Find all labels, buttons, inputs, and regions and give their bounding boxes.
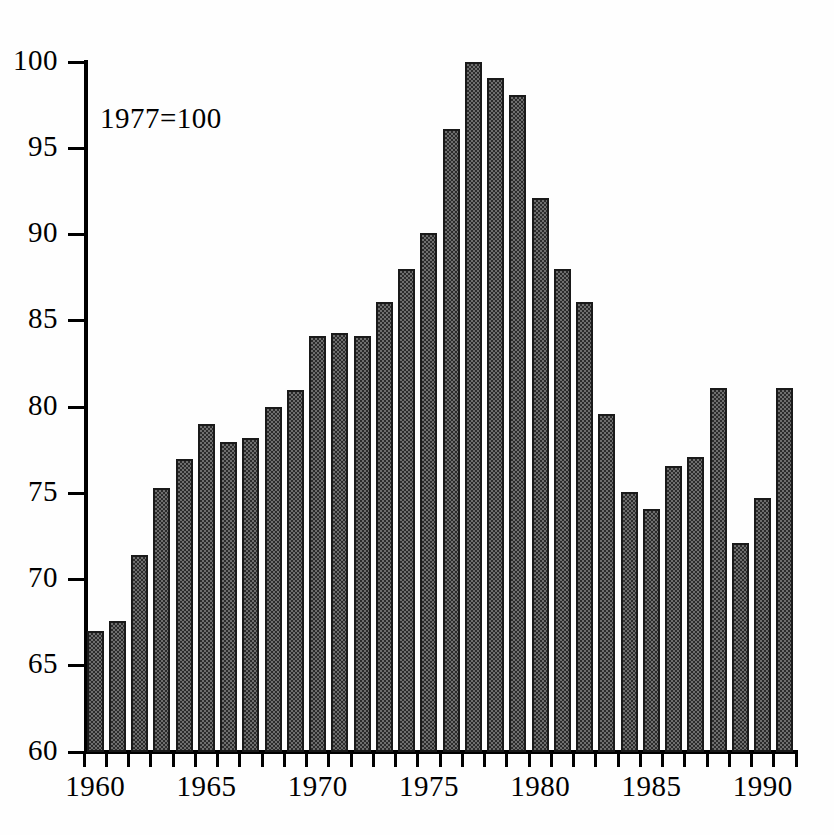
y-tick-label: 85: [28, 304, 58, 333]
y-tick: 100: [68, 61, 84, 64]
y-tick-label: 95: [28, 132, 58, 161]
bar: [532, 198, 549, 752]
bar: [309, 336, 326, 752]
x-tick: [394, 752, 397, 767]
bar: [87, 631, 104, 752]
x-tick: [416, 752, 419, 767]
y-tick-label: 60: [28, 735, 58, 764]
x-tick: [750, 752, 753, 767]
bar: [732, 543, 749, 752]
x-tick: [795, 752, 798, 767]
x-tick: [572, 752, 575, 767]
bar: [754, 498, 771, 752]
x-tick: [617, 752, 620, 767]
bar: [354, 336, 371, 752]
x-tick: [661, 752, 664, 767]
bar: [509, 95, 526, 752]
y-tick-label: 75: [28, 477, 58, 506]
x-tick-label: 1970: [288, 772, 348, 801]
y-tick: 95: [68, 147, 84, 150]
x-tick: [706, 752, 709, 767]
bar: [220, 442, 237, 753]
bar: [242, 438, 259, 752]
bar: [153, 488, 170, 752]
bar: [176, 459, 193, 752]
x-tick: [683, 752, 686, 767]
x-tick: [127, 752, 130, 767]
x-tick: [327, 752, 330, 767]
y-tick: 85: [68, 319, 84, 322]
x-tick-label: 1990: [733, 772, 793, 801]
y-tick-label: 65: [28, 649, 58, 678]
x-tick-label: 1975: [399, 772, 459, 801]
y-tick: 80: [68, 406, 84, 409]
x-tick: [149, 752, 152, 767]
x-tick: [772, 752, 775, 767]
y-tick: 75: [68, 492, 84, 495]
x-tick-label: 1960: [65, 772, 125, 801]
x-tick: [728, 752, 731, 767]
y-tick-label: 70: [28, 563, 58, 592]
bar: [398, 269, 415, 752]
x-tick-label: 1985: [621, 772, 681, 801]
x-tick: [350, 752, 353, 767]
x-tick-label: 1965: [176, 772, 236, 801]
plot-area: 6065707580859095100 19601965197019751980…: [84, 62, 796, 752]
y-tick-label: 90: [28, 218, 58, 247]
x-tick: [483, 752, 486, 767]
bar: [465, 62, 482, 752]
bar: [265, 407, 282, 752]
x-tick: [550, 752, 553, 767]
bar: [109, 621, 126, 752]
bar: [376, 302, 393, 752]
x-tick: [305, 752, 308, 767]
bar: [598, 414, 615, 752]
y-tick: 90: [68, 233, 84, 236]
x-tick: [528, 752, 531, 767]
x-tick: [83, 752, 86, 767]
x-tick: [194, 752, 197, 767]
bar: [710, 388, 727, 752]
x-tick: [283, 752, 286, 767]
x-tick: [238, 752, 241, 767]
bar: [576, 302, 593, 752]
bar: [554, 269, 571, 752]
bar-chart-figure: 6065707580859095100 19601965197019751980…: [0, 0, 834, 835]
bar: [131, 555, 148, 752]
bar: [287, 390, 304, 752]
y-tick-label: 80: [28, 390, 58, 419]
bar: [487, 78, 504, 752]
x-tick: [461, 752, 464, 767]
bar: [643, 509, 660, 752]
y-tick-label: 100: [13, 45, 58, 74]
x-tick: [172, 752, 175, 767]
x-tick-label: 1980: [510, 772, 570, 801]
y-tick: 65: [68, 664, 84, 667]
bar: [420, 233, 437, 752]
bar: [621, 492, 638, 752]
x-tick: [105, 752, 108, 767]
bar: [665, 466, 682, 752]
bar: [687, 457, 704, 752]
x-tick: [594, 752, 597, 767]
x-tick: [372, 752, 375, 767]
x-tick: [505, 752, 508, 767]
bar: [331, 333, 348, 752]
x-tick: [439, 752, 442, 767]
bar: [443, 129, 460, 752]
bar: [776, 388, 793, 752]
x-tick: [261, 752, 264, 767]
chart-annotation: 1977=100: [100, 104, 222, 133]
y-tick: 70: [68, 578, 84, 581]
bar: [198, 424, 215, 752]
x-tick: [639, 752, 642, 767]
x-tick: [216, 752, 219, 767]
